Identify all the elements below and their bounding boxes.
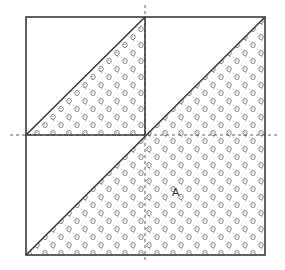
quilt-diagram: A xyxy=(0,0,285,270)
region-label-a: A xyxy=(172,186,180,198)
